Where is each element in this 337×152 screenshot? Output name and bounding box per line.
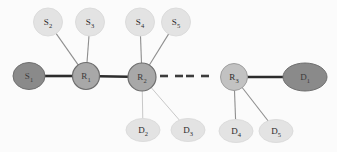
edge-s4-r2 — [140, 35, 141, 63]
node-shape-s2 — [34, 8, 63, 36]
node-shape-s5 — [162, 8, 191, 36]
node-shape-r2 — [128, 63, 156, 91]
node-r1[interactable]: R1 — [73, 63, 100, 90]
edge-s3-r1 — [87, 35, 89, 63]
node-s2[interactable]: S2 — [34, 8, 63, 36]
node-shape-d1 — [283, 63, 327, 91]
edge-s5-r2 — [149, 34, 169, 66]
node-shape-d5 — [259, 120, 293, 143]
edge-r3-d4 — [234, 90, 235, 120]
node-r3[interactable]: R3 — [221, 64, 248, 91]
node-d1[interactable]: D1 — [283, 63, 327, 91]
node-d2[interactable]: D2 — [126, 119, 160, 142]
edge-r2-d3 — [151, 87, 180, 120]
edge-r2-d2 — [142, 90, 143, 119]
diagram-canvas: S1R1R2R3D1S2S3S4S5D2D3D4D5 — [0, 0, 337, 152]
node-shape-s3 — [76, 8, 105, 36]
node-s4[interactable]: S4 — [126, 8, 155, 36]
node-s5[interactable]: S5 — [162, 8, 191, 36]
node-s3[interactable]: S3 — [76, 8, 105, 36]
node-s1[interactable]: S1 — [13, 63, 45, 90]
network-graph: S1R1R2R3D1S2S3S4S5D2D3D4D5 — [0, 0, 337, 152]
node-shape-d2 — [126, 119, 160, 142]
edge-r3-d5 — [242, 87, 268, 121]
node-shape-d4 — [219, 120, 253, 143]
node-d4[interactable]: D4 — [219, 120, 253, 143]
node-d3[interactable]: D3 — [171, 119, 205, 142]
node-r2[interactable]: R2 — [128, 63, 156, 91]
node-shape-d3 — [171, 119, 205, 142]
node-shape-s4 — [126, 8, 155, 36]
edge-r1-r2 — [99, 76, 129, 77]
edge-s2-r1 — [56, 33, 79, 65]
node-shape-r3 — [221, 64, 248, 91]
node-d5[interactable]: D5 — [259, 120, 293, 143]
node-shape-r1 — [73, 63, 100, 90]
node-shape-s1 — [13, 63, 45, 90]
